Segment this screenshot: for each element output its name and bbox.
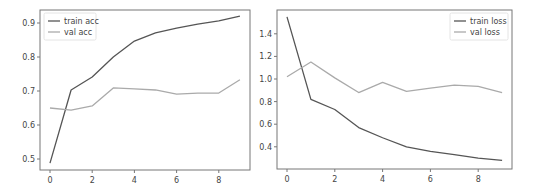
legend-label: val acc [64, 28, 92, 37]
x-tick-label: 4 [380, 175, 385, 184]
y-tick-label: 1.2 [259, 52, 272, 61]
loss-plot: 024680.40.60.81.01.21.4train lossval los… [259, 10, 512, 184]
y-tick-label: 0.7 [22, 87, 35, 96]
y-tick-label: 0.5 [22, 155, 35, 164]
x-tick-label: 4 [132, 176, 137, 185]
x-tick-label: 8 [476, 175, 481, 184]
x-tick-label: 2 [90, 176, 95, 185]
y-tick-label: 0.8 [22, 53, 35, 62]
y-tick-label: 1.0 [259, 75, 272, 84]
x-tick-label: 8 [216, 176, 221, 185]
legend-label: train acc [64, 17, 99, 26]
x-tick-label: 6 [428, 175, 433, 184]
x-tick-label: 6 [174, 176, 179, 185]
y-tick-label: 0.6 [22, 121, 35, 130]
accuracy-legend: train accval acc [44, 13, 99, 40]
y-tick-label: 0.8 [259, 98, 272, 107]
training-curves-figure: 024680.50.60.70.80.9train accval acc 024… [0, 0, 533, 192]
y-tick-label: 1.4 [259, 30, 272, 39]
loss-legend: train lossval loss [450, 13, 508, 40]
x-tick-label: 0 [47, 176, 52, 185]
legend-label: train loss [470, 17, 507, 26]
legend-label: val loss [470, 28, 500, 37]
y-tick-label: 0.4 [259, 143, 272, 152]
x-tick-label: 2 [332, 175, 337, 184]
x-tick-label: 0 [284, 175, 289, 184]
y-tick-label: 0.6 [259, 120, 272, 129]
y-tick-label: 0.9 [22, 19, 35, 28]
accuracy-plot: 024680.50.60.70.80.9train accval acc [22, 10, 250, 185]
